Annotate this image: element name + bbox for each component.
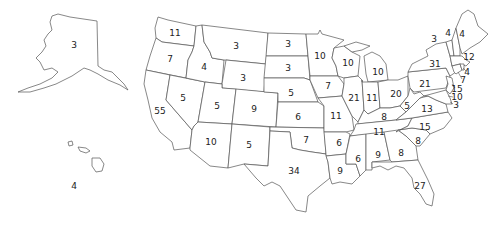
- state-sd[interactable]: [264, 56, 310, 80]
- state-wy[interactable]: [222, 60, 266, 92]
- state-hi[interactable]: [68, 141, 104, 172]
- state-nm[interactable]: [228, 124, 270, 168]
- state-ut[interactable]: [198, 82, 236, 124]
- state-fl[interactable]: [372, 160, 434, 206]
- leader-line-ct: [458, 72, 462, 79]
- us-map: [0, 0, 491, 226]
- state-nd[interactable]: [266, 33, 308, 56]
- state-ak[interactable]: [18, 14, 128, 92]
- state-in[interactable]: [362, 80, 380, 114]
- state-ks[interactable]: [276, 102, 324, 128]
- state-co[interactable]: [232, 89, 278, 127]
- state-az[interactable]: [190, 122, 232, 168]
- state-mt[interactable]: [202, 25, 268, 64]
- state-me[interactable]: [456, 10, 488, 54]
